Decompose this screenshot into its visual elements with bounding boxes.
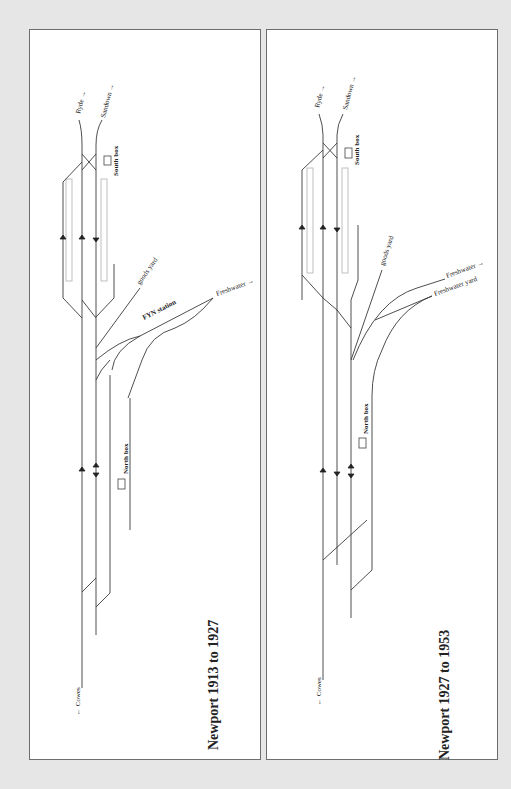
arrow-up-icon [320, 225, 326, 229]
track-fyn-junction [112, 336, 140, 370]
scissors-crossover [323, 143, 337, 158]
south-signal-box [104, 156, 111, 165]
label-goods-yard: goods yard [378, 234, 395, 266]
platform-east [342, 168, 348, 273]
crossover-diagonal [302, 275, 351, 328]
label-south-box: South box [112, 145, 120, 176]
panel-title: Newport 1927 to 1953 [437, 630, 452, 760]
track-goods-yard [96, 288, 140, 348]
platform-west [66, 179, 72, 281]
label-freshwater-yard: Freshwater yard [433, 275, 479, 298]
label-ryde: Ryde → [74, 90, 88, 115]
arrow-up-icon [79, 467, 85, 471]
label-cowes: ← Cowes [74, 687, 82, 715]
label-freshwater: Freshwater → [445, 259, 485, 280]
crossover-lower [323, 520, 367, 560]
label-ryde: Ryde → [313, 84, 327, 109]
panel-title: Newport 1913 to 1927 [206, 620, 221, 750]
track-freshwater-curve [128, 298, 213, 398]
label-cowes: ← Cowes [315, 677, 323, 705]
diagram-panel-1927-1953: Ryde → Sandown → South box goods yard Fr… [266, 29, 498, 760]
track-diagram-1927: Ryde → Sandown → South box goods yard Fr… [267, 30, 499, 761]
label-north-box: North box [362, 403, 370, 434]
label-goods-yard: goods yard [135, 256, 160, 286]
track-diagram-1913: Ryde → Sandown → South box goods yard FY… [30, 30, 262, 761]
label-sandown: Sandown → [99, 83, 116, 119]
track-goods-yard [351, 270, 382, 360]
arrow-up-icon [79, 235, 85, 239]
label-fyn-station: FYN station [141, 298, 177, 322]
south-signal-box [345, 148, 352, 158]
platform-east [101, 179, 107, 281]
track-north-siding-junction [96, 360, 110, 380]
north-signal-box [359, 438, 366, 448]
track-ryde-line [79, 120, 82, 649]
arrow-down-icon [334, 472, 340, 476]
arrow-down-icon [334, 228, 340, 232]
platform-west [307, 168, 313, 273]
label-sandown: Sandown → [341, 75, 358, 111]
crossover-lower [82, 578, 96, 592]
track-east-loop [351, 225, 358, 618]
scissors-crossover [82, 154, 96, 170]
north-signal-box [118, 479, 125, 489]
arrow-up-icon [60, 235, 66, 239]
arrow-up-icon [299, 225, 305, 229]
label-south-box: South box [353, 134, 361, 165]
track-ryde-line [319, 114, 323, 600]
label-freshwater: Freshwater → [215, 277, 255, 298]
track-north-siding [96, 375, 110, 607]
diagram-panel-1913-1927: Ryde → Sandown → South box goods yard FY… [29, 29, 261, 760]
track-west-loop [302, 150, 323, 300]
arrow-up-icon [320, 468, 326, 472]
arrow-down-icon [93, 238, 99, 242]
track-east-siding [96, 264, 114, 317]
crossover-mid [82, 300, 96, 318]
label-north-box: North box [122, 443, 130, 474]
